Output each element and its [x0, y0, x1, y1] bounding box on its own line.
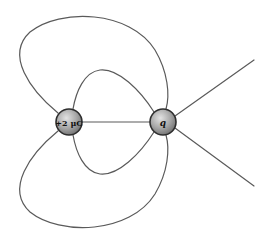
field-line-inner-top-loop: [73, 70, 154, 112]
field-line-outer-top-loop: [20, 16, 168, 113]
field-line-inner-bottom-loop: [73, 132, 154, 174]
charge-right: q: [150, 109, 176, 135]
charge-left-label: +2 μC: [55, 118, 82, 128]
field-line-right-upper-line: [175, 60, 254, 116]
field-line-outer-bottom-loop: [20, 131, 168, 228]
charge-left: +2 μC: [55, 109, 82, 135]
charge-right-label: q: [160, 118, 166, 128]
field-line-right-lower-line: [175, 128, 254, 186]
field-line-diagram: +2 μCq: [0, 0, 266, 237]
